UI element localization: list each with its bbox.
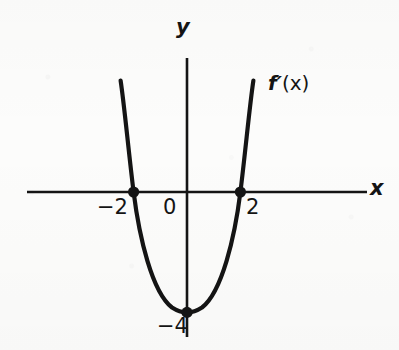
curve-label-suffix: (x) (282, 71, 309, 95)
graph-figure: y x f′(x) −2 0 2 −4 (0, 0, 399, 350)
curve-label-prefix: f′ (268, 71, 282, 95)
point-root-left (128, 186, 139, 197)
curve-label: f′(x) (268, 73, 309, 93)
point-root-right (235, 186, 246, 197)
tick-label-y-negative-four: −4 (157, 316, 188, 337)
origin-label: 0 (163, 197, 176, 218)
x-axis (27, 185, 378, 200)
tick-label-x-two: 2 (246, 197, 259, 218)
y-axis-label: y (176, 17, 190, 38)
tick-label-x-negative-two: −2 (97, 197, 128, 218)
x-axis-label: x (370, 178, 384, 199)
coordinate-plot (0, 0, 399, 350)
